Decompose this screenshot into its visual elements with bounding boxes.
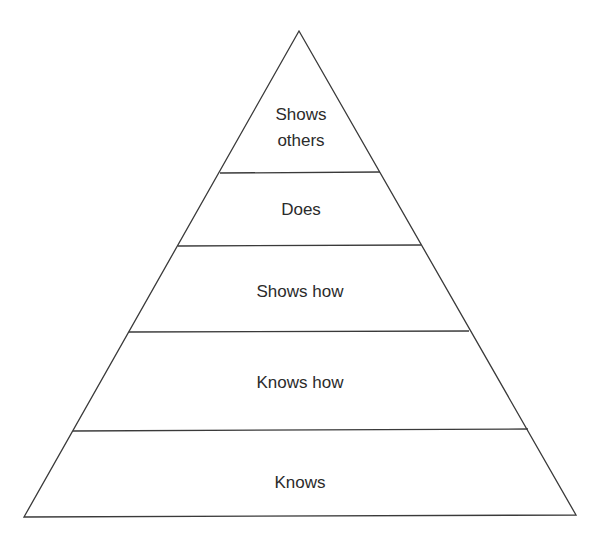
tier-label: Knows xyxy=(274,473,325,492)
tier-does: Does xyxy=(281,200,321,219)
tier-label: Shows how xyxy=(257,282,345,301)
tier-label: Knows how xyxy=(257,373,345,392)
tier-shows-how: Shows how xyxy=(257,282,345,301)
tier-label: Shows xyxy=(275,105,326,124)
pyramid-diagram: Shows others Does Shows how Knows how Kn… xyxy=(0,0,605,550)
tier-label: others xyxy=(277,131,324,150)
tier-label: Does xyxy=(281,200,321,219)
pyramid-outline xyxy=(24,31,576,517)
tier-knows: Knows xyxy=(274,473,325,492)
tier-knows-how: Knows how xyxy=(257,373,345,392)
